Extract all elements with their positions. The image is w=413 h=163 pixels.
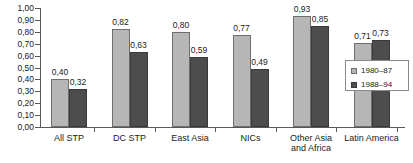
x-axis-tick bbox=[276, 127, 277, 132]
x-axis-category-label: Latin America bbox=[335, 133, 409, 143]
x-axis-tick bbox=[155, 127, 156, 132]
y-axis-tick-label: 0,60 bbox=[0, 52, 34, 61]
y-axis-tick bbox=[35, 44, 41, 45]
y-axis-tick-label: 0,50 bbox=[0, 64, 34, 73]
y-axis-tick bbox=[35, 56, 41, 57]
y-axis-tick-label: 0,40 bbox=[0, 75, 34, 84]
bar-value-label: 0,85 bbox=[307, 15, 333, 24]
y-axis-tick bbox=[35, 127, 41, 128]
bar-value-label: 0,32 bbox=[65, 78, 91, 87]
x-axis-tick bbox=[397, 127, 398, 132]
y-axis-tick bbox=[35, 8, 41, 9]
bar-value-label: 0,80 bbox=[168, 21, 194, 30]
bar-chart: 0,000,100,200,300,400,500,600,700,800,90… bbox=[0, 0, 413, 163]
legend-item-series-2: 1988–94 bbox=[351, 79, 408, 90]
y-axis-tick-label: 0,10 bbox=[0, 111, 34, 120]
bar bbox=[233, 35, 251, 127]
bar bbox=[130, 52, 148, 127]
bar bbox=[190, 57, 208, 127]
bar-value-label: 0,63 bbox=[126, 41, 152, 50]
y-axis-tick bbox=[35, 20, 41, 21]
bar bbox=[293, 16, 311, 127]
y-axis-tick bbox=[35, 79, 41, 80]
y-axis-tick-label: 0,90 bbox=[0, 16, 34, 25]
x-axis-tick bbox=[94, 127, 95, 132]
legend-swatch-icon bbox=[351, 82, 357, 88]
bar bbox=[69, 89, 87, 127]
x-axis-tick bbox=[215, 127, 216, 132]
y-axis-tick bbox=[35, 91, 41, 92]
bar bbox=[251, 69, 269, 127]
y-axis-tick-label: 0,70 bbox=[0, 40, 34, 49]
legend-swatch-icon bbox=[351, 68, 357, 74]
y-axis-tick bbox=[35, 103, 41, 104]
legend-label: 1988–94 bbox=[361, 81, 392, 89]
bar bbox=[51, 79, 69, 127]
y-axis-tick-label: 0,20 bbox=[0, 99, 34, 108]
legend-item-series-1: 1980–87 bbox=[351, 65, 408, 76]
legend-label: 1980–87 bbox=[361, 67, 392, 75]
y-axis-tick-label: 1,00 bbox=[0, 4, 34, 13]
bar-value-label: 0,73 bbox=[368, 29, 394, 38]
bar-value-label: 0,93 bbox=[289, 5, 315, 14]
y-axis-tick bbox=[35, 115, 41, 116]
bar-value-label: 0,49 bbox=[247, 58, 273, 67]
bar-value-label: 0,59 bbox=[186, 46, 212, 55]
y-axis-tick-label: 0,30 bbox=[0, 87, 34, 96]
bar bbox=[311, 26, 329, 127]
y-axis-tick bbox=[35, 32, 41, 33]
x-axis-tick bbox=[336, 127, 337, 132]
bar-value-label: 0,77 bbox=[229, 24, 255, 33]
y-axis-tick bbox=[35, 68, 41, 69]
y-axis-tick-label: 0,80 bbox=[0, 28, 34, 37]
y-axis-tick-label: 0,00 bbox=[0, 123, 34, 132]
bar-value-label: 0,82 bbox=[108, 18, 134, 27]
chart-legend: 1980–87 1988–94 bbox=[345, 60, 409, 91]
bar-value-label: 0,40 bbox=[47, 68, 73, 77]
